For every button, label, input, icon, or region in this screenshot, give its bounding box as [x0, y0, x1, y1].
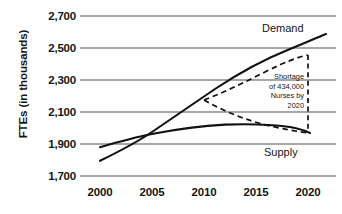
shortage-annotation-line-1: Shortage — [228, 72, 304, 82]
shortage-annotation-line-3: Nurses by — [228, 91, 304, 101]
nursing-workforce-chart: FTEs (in thousands) 2,700 2,500 2,300 2,… — [0, 0, 342, 214]
shortage-annotation: Shortage of 434,000 Nurses by 2020 — [228, 72, 304, 110]
shortage-annotation-line-2: of 434,000 — [228, 82, 304, 92]
series-label-demand: Demand — [262, 22, 304, 34]
shortage-annotation-line-4: 2020 — [228, 101, 304, 111]
series-label-supply: Supply — [264, 146, 298, 158]
